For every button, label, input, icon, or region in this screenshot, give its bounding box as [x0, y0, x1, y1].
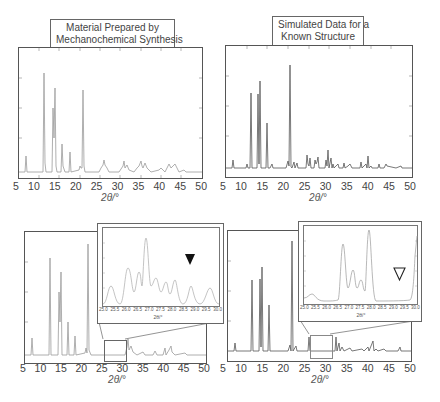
x-axis-label: 2θ/° — [305, 374, 335, 385]
inset-x-axis-label: 2θ/° — [148, 314, 168, 320]
filled-triangle-marker-icon — [185, 254, 195, 265]
inset-plot-area — [102, 227, 220, 307]
xrd-trace-simulated — [226, 46, 412, 177]
inset-zoom: 25.025.526.026.527.027.528.028.529.029.5… — [97, 223, 224, 324]
x-tick-labels: 5101520253035404550 — [220, 362, 416, 374]
inset-trace — [304, 226, 417, 304]
plot-area — [18, 47, 203, 179]
panel-mechanochemical: Material Prepared by Mechanochemical Syn… — [0, 0, 220, 200]
open-triangle-marker-icon — [394, 268, 405, 280]
x-tick-labels: 5101520253035404550 — [20, 362, 210, 374]
x-tick-labels: 5101520253035404550 — [220, 180, 416, 192]
xrd-trace-experimental — [19, 48, 202, 178]
chart-title: Simulated Data for a Known Structure — [272, 16, 364, 46]
inset-tick-labels: 25.025.526.026.527.027.528.028.529.029.5… — [300, 305, 420, 310]
inset-tick-labels: 25.025.526.026.527.027.528.028.529.029.5… — [99, 307, 222, 312]
panel-mechanochemical-zoom: 25.025.526.026.527.027.528.028.529.029.5… — [0, 200, 220, 402]
x-tick-labels: 5101520253035404550 — [13, 180, 207, 192]
plot-area — [225, 45, 413, 178]
inset-plot-area — [303, 225, 418, 305]
inset-zoom: 25.025.526.026.527.027.528.028.529.029.5… — [298, 221, 422, 322]
x-axis-label: 2θ/° — [102, 374, 132, 385]
inset-x-axis-label: 2θ/° — [351, 312, 371, 318]
panel-simulated-zoom: 25.025.526.026.527.027.528.028.529.029.5… — [220, 200, 440, 402]
inset-trace — [103, 228, 219, 306]
panel-simulated: Simulated Data for a Known Structure 510… — [220, 0, 440, 200]
chart-title: Material Prepared by Mechanochemical Syn… — [50, 19, 175, 49]
